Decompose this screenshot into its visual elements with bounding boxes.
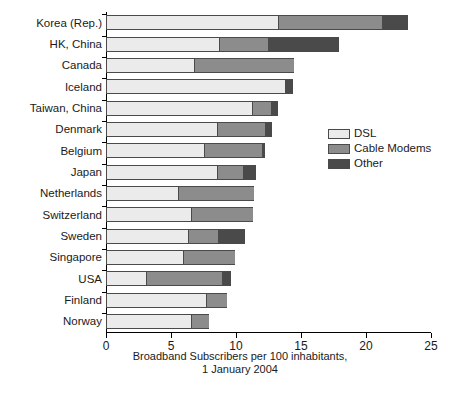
legend-label: Cable Modems	[354, 141, 431, 156]
bar-segment-cable-modems	[183, 250, 235, 265]
y-axis-label-taiwan-china: Taiwan, China	[2, 102, 102, 114]
y-axis-tick	[102, 14, 106, 15]
bar-segment-dsl	[106, 15, 278, 30]
legend-item-dsl: DSL	[328, 126, 431, 141]
y-axis-tick	[102, 57, 106, 58]
bar-segment-other	[218, 229, 245, 244]
bar-segment-cable-modems	[217, 165, 243, 180]
y-axis-tick	[102, 121, 106, 122]
bar-segment-dsl	[106, 122, 217, 137]
x-axis-tick	[236, 333, 237, 338]
y-axis-tick	[102, 270, 106, 271]
bar-segment-cable-modems	[206, 293, 227, 308]
bar-segment-cable-modems	[191, 207, 253, 222]
bar-segment-dsl	[106, 271, 146, 286]
y-axis-label-singapore: Singapore	[2, 251, 102, 263]
y-axis-label-iceland: Iceland	[2, 81, 102, 93]
bar-segment-dsl	[106, 250, 183, 265]
chart-legend: DSLCable ModemsOther	[328, 126, 431, 171]
bar-segment-dsl	[106, 207, 191, 222]
bar-row	[106, 207, 253, 222]
bar-segment-dsl	[106, 101, 252, 116]
bar-row	[106, 165, 256, 180]
bar-segment-dsl	[106, 165, 217, 180]
y-axis-tick	[102, 228, 106, 229]
y-axis-label-switzerland: Switzerland	[2, 209, 102, 221]
y-axis-tick	[102, 206, 106, 207]
bar-segment-other	[222, 271, 231, 286]
bar-segment-cable-modems	[252, 101, 272, 116]
bar-segment-other	[268, 37, 338, 52]
bar-segment-dsl	[106, 229, 188, 244]
x-axis-title-line-2: 1 January 2004	[60, 363, 420, 376]
bar-segment-dsl	[106, 37, 219, 52]
y-axis-label-hk-china: HK, China	[2, 38, 102, 50]
broadband-subscribers-bar-chart: Korea (Rep.)HK, ChinaCanadaIcelandTaiwan…	[0, 0, 459, 396]
y-axis-label-sweden: Sweden	[2, 230, 102, 242]
bar-segment-dsl	[106, 293, 206, 308]
legend-item-other: Other	[328, 156, 431, 171]
bar-segment-cable-modems	[217, 122, 265, 137]
legend-label: DSL	[354, 126, 376, 141]
y-axis-label-norway: Norway	[2, 315, 102, 327]
bar-segment-dsl	[106, 79, 285, 94]
y-axis-label-finland: Finland	[2, 294, 102, 306]
legend-swatch-icon	[328, 144, 350, 154]
bar-row	[106, 186, 254, 201]
bar-row	[106, 293, 227, 308]
y-axis-tick	[102, 142, 106, 143]
bar-segment-cable-modems	[194, 58, 294, 73]
bar-segment-cable-modems	[191, 314, 209, 329]
y-axis-label-usa: USA	[2, 273, 102, 285]
y-axis-tick	[102, 249, 106, 250]
x-axis-title-line-1: Broadband Subscribers per 100 inhabitant…	[60, 350, 420, 363]
bar-segment-other	[271, 101, 278, 116]
bar-segment-other	[243, 165, 256, 180]
x-axis-tick	[366, 333, 367, 338]
bar-segment-cable-modems	[146, 271, 221, 286]
bar-row	[106, 37, 339, 52]
y-axis-tick	[102, 185, 106, 186]
y-axis-tick	[102, 164, 106, 165]
legend-label: Other	[354, 156, 383, 171]
y-axis-label-canada: Canada	[2, 59, 102, 71]
bar-row	[106, 271, 231, 286]
bar-segment-dsl	[106, 143, 204, 158]
plot-area	[106, 12, 431, 332]
bar-segment-dsl	[106, 58, 194, 73]
bar-segment-cable-modems	[219, 37, 268, 52]
bar-segment-other	[265, 122, 273, 137]
bar-row	[106, 229, 245, 244]
bar-row	[106, 122, 272, 137]
bar-row	[106, 15, 408, 30]
y-axis-tick	[102, 78, 106, 79]
y-axis-label-japan: Japan	[2, 166, 102, 178]
y-axis-label-belgium: Belgium	[2, 145, 102, 157]
bar-segment-other	[262, 143, 265, 158]
y-axis-tick	[102, 100, 106, 101]
bar-segment-cable-modems	[178, 186, 255, 201]
bar-segment-other	[285, 79, 293, 94]
legend-swatch-icon	[328, 129, 350, 139]
y-axis-category-labels: Korea (Rep.)HK, ChinaCanadaIcelandTaiwan…	[0, 12, 102, 332]
y-axis-label-korea-rep: Korea (Rep.)	[2, 17, 102, 29]
y-axis-label-denmark: Denmark	[2, 123, 102, 135]
bar-row	[106, 58, 294, 73]
x-axis-tick	[106, 333, 107, 338]
x-axis-tick	[171, 333, 172, 338]
x-axis-tick	[301, 333, 302, 338]
legend-item-cable-modems: Cable Modems	[328, 141, 431, 156]
bar-row	[106, 101, 278, 116]
legend-swatch-icon	[328, 159, 350, 169]
bar-row	[106, 79, 293, 94]
bar-row	[106, 143, 265, 158]
bar-segment-cable-modems	[204, 143, 263, 158]
y-axis-label-netherlands: Netherlands	[2, 187, 102, 199]
bar-segment-dsl	[106, 314, 191, 329]
bar-segment-cable-modems	[278, 15, 382, 30]
y-axis-tick	[102, 292, 106, 293]
bar-row	[106, 250, 235, 265]
bar-segment-cable-modems	[188, 229, 218, 244]
x-axis-tick	[431, 333, 432, 338]
bar-row	[106, 314, 209, 329]
